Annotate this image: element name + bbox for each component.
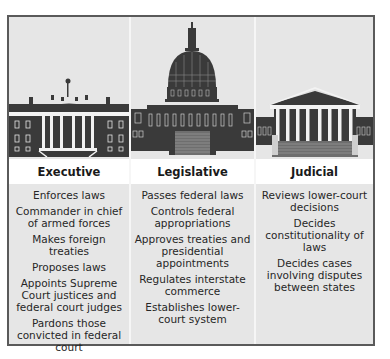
power-item: Approves treaties and presidential appoi… — [134, 233, 251, 269]
power-item: Makes foreign treaties — [12, 233, 126, 257]
column-legislative: Legislative Passes federal laws Controls… — [131, 17, 254, 344]
power-item: Controls federal appropriations — [134, 205, 251, 229]
power-item: Enforces laws — [12, 189, 126, 201]
power-item: Decides constitutionality of laws — [259, 217, 370, 253]
supreme-court-illustration — [256, 17, 373, 157]
power-item: Decides cases involving disputes between… — [259, 257, 370, 293]
branch-title-executive: Executive — [9, 159, 129, 184]
branches-table: Executive Enforces laws Commander in chi… — [7, 15, 375, 346]
power-list-judicial: Reviews lower-court decisions Decides co… — [256, 189, 373, 297]
power-list-executive: Enforces laws Commander in chief of arme… — [9, 189, 129, 357]
power-item: Establishes lower-court system — [134, 301, 251, 325]
power-item: Commander in chief of armed forces — [12, 205, 126, 229]
power-item: Appoints Supreme Court justices and fede… — [12, 277, 126, 313]
white-house-illustration — [9, 17, 129, 157]
column-judicial: Judicial Reviews lower-court decisions D… — [256, 17, 373, 344]
column-executive: Executive Enforces laws Commander in chi… — [9, 17, 129, 344]
power-item: Passes federal laws — [134, 189, 251, 201]
branch-title-legislative: Legislative — [131, 159, 254, 184]
branch-title-judicial: Judicial — [256, 159, 373, 184]
power-item: Proposes laws — [12, 261, 126, 273]
capitol-illustration — [131, 17, 254, 157]
power-item: Pardons those convicted in federal court — [12, 317, 126, 353]
power-item: Regulates interstate commerce — [134, 273, 251, 297]
power-item: Reviews lower-court decisions — [259, 189, 370, 213]
power-list-legislative: Passes federal laws Controls federal app… — [131, 189, 254, 329]
